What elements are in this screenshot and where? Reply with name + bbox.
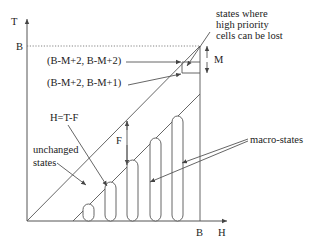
y-axis-label: T	[11, 16, 18, 27]
x-axis-tick-b: B	[196, 227, 203, 238]
state-label-upper: (B-M+2, B-M+2)	[47, 55, 122, 67]
unchanged-states-label-2: states	[33, 157, 56, 168]
macro-state-3	[127, 160, 138, 221]
macro-states-label: macro-states	[250, 134, 303, 145]
m-dimension-label: M	[214, 54, 224, 65]
h-eq-leader	[68, 125, 107, 186]
state-space-diagram: T B B H M F (B-M+2, B-M+2) (B-M+2, B-M+1…	[0, 0, 315, 241]
f-dimension-label: F	[116, 135, 122, 146]
macro-state-2	[105, 182, 116, 221]
macro-state-1	[83, 204, 94, 221]
lost-states-label-3: cells can be lost	[216, 30, 283, 41]
lost-states-label-2: high priority	[216, 19, 270, 30]
macro-leader-1	[182, 139, 248, 163]
x-axis-label: H	[218, 227, 226, 238]
state-lower-leader	[128, 74, 181, 85]
macro-states-group	[83, 116, 183, 221]
y-axis-tick-b: B	[16, 41, 23, 52]
macro-leader-2	[150, 141, 248, 182]
h-equals-t-minus-f-label: H=T-F	[50, 112, 78, 123]
unchanged-states-label-1: unchanged	[33, 144, 79, 155]
state-label-lower: (B-M+2, B-M+1)	[47, 77, 122, 89]
lost-states-label-1: states where	[216, 8, 268, 19]
